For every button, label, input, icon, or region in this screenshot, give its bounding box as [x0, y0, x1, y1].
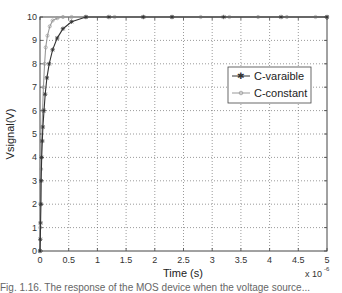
star-marker-icon: ✱ — [237, 71, 245, 81]
x-tick-label: 0.5 — [62, 255, 75, 265]
data-point — [84, 15, 88, 19]
x-multiplier: x 10 -6 — [305, 266, 330, 279]
axis-ticks: 00.511.522.533.544.55012345678910 — [27, 12, 330, 265]
legend: ✱ C-varaible C-constant — [228, 67, 311, 103]
y-tick-label: 3 — [32, 176, 37, 186]
x-tick-label: 2 — [152, 255, 157, 265]
x-tick-label: 1.5 — [120, 255, 133, 265]
data-point — [40, 155, 44, 159]
y-tick-label: 6 — [32, 106, 37, 116]
y-tick-label: 7 — [32, 82, 37, 92]
data-point — [61, 27, 65, 31]
data-point — [38, 237, 42, 241]
data-point — [47, 62, 51, 66]
data-point — [42, 108, 46, 112]
data-point — [107, 15, 111, 19]
x-tick-label: 4 — [267, 255, 272, 265]
y-tick-label: 4 — [32, 152, 37, 162]
y-tick-label: 0 — [32, 246, 37, 256]
data-point — [38, 249, 42, 253]
x-tick-label: 1 — [95, 255, 100, 265]
legend-item-c-variable: ✱ C-varaible — [232, 70, 304, 82]
y-tick-label: 9 — [32, 35, 37, 45]
data-point — [39, 179, 43, 183]
data-point — [39, 202, 43, 206]
x-tick-label: 0 — [37, 255, 42, 265]
data-point — [170, 15, 174, 19]
y-tick-label: 10 — [27, 12, 37, 22]
x-tick-label: 3.5 — [235, 255, 248, 265]
svg-text:x 10: x 10 — [305, 269, 322, 279]
svg-text:C-constant: C-constant — [254, 87, 307, 99]
svg-text:-6: -6 — [324, 266, 330, 272]
data-point — [38, 221, 42, 225]
y-tick-label: 5 — [32, 129, 37, 139]
y-tick-label: 1 — [32, 223, 37, 233]
data-point — [41, 125, 45, 129]
data-point — [50, 48, 54, 52]
data-point — [45, 76, 49, 80]
svg-text:C-varaible: C-varaible — [254, 70, 304, 82]
y-tick-label: 8 — [32, 59, 37, 69]
data-point — [69, 19, 73, 23]
data-point — [43, 92, 47, 96]
x-tick-label: 2.5 — [177, 255, 190, 265]
y-axis-label: Vsignal(V) — [4, 109, 16, 160]
x-tick-label: 3 — [210, 255, 215, 265]
data-point — [55, 36, 59, 40]
x-tick-label: 4.5 — [292, 255, 305, 265]
y-tick-label: 2 — [32, 199, 37, 209]
data-point — [141, 15, 145, 19]
figure-caption: Fig. 1.16. The response of the MOS devic… — [0, 282, 342, 293]
data-point — [325, 15, 329, 19]
data-point — [40, 139, 44, 143]
x-axis-label: Time (s) — [163, 267, 203, 279]
grid-lines — [40, 17, 327, 251]
data-point — [279, 15, 283, 19]
data-point — [221, 15, 225, 19]
x-tick-label: 5 — [324, 255, 329, 265]
